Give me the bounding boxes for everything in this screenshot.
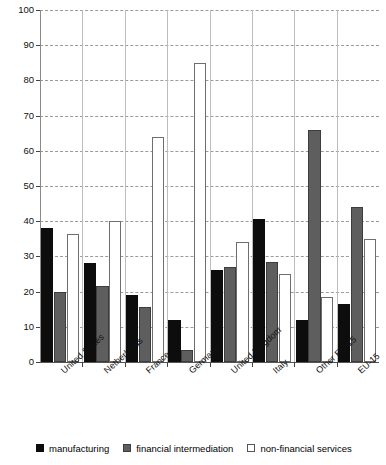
x-tick-mark [210,362,211,367]
legend-item: financial intermediation [123,443,233,454]
bar-nonfin [152,137,164,362]
bar-nonfin [67,234,79,362]
bar-group [294,10,336,362]
y-tick-label-40: 40 [0,216,34,226]
bar-chart: 0102030405060708090100 United StatesNeth… [0,0,386,465]
y-tick-label-60: 60 [0,146,34,156]
bar-manufacturing [84,263,96,362]
bar-nonfin [321,297,333,362]
y-tick-label-70: 70 [0,111,34,121]
legend-item: manufacturing [36,443,109,454]
y-tick-label-50: 50 [0,181,34,191]
bar-group [125,10,167,362]
bar-financial [139,307,151,362]
bar-group [252,10,294,362]
bar-nonfin [194,63,206,362]
legend-item: non-financial services [247,443,351,454]
bar-manufacturing [168,320,180,362]
x-tick-mark [337,362,338,367]
x-tick-mark [167,362,168,367]
y-tick-label-100: 100 [0,5,34,15]
bar-group [40,10,82,362]
bar-nonfin [109,221,121,362]
legend-swatch-financial [123,444,131,452]
bar-group [167,10,209,362]
chart-legend: manufacturingfinancial intermediationnon… [36,440,376,456]
bar-manufacturing [126,295,138,362]
bar-manufacturing [211,270,223,362]
y-tick-label-20: 20 [0,287,34,297]
legend-label: financial intermediation [136,443,233,454]
x-tick-mark [252,362,253,367]
bar-financial [308,130,320,362]
bar-group [82,10,124,362]
bar-manufacturing [41,228,53,362]
bar-groups [40,10,379,362]
bar-financial [266,262,278,362]
bar-manufacturing [338,304,350,362]
bar-group [337,10,379,362]
x-tick-mark [82,362,83,367]
legend-swatch-nonfin [247,444,255,452]
y-tick-label-30: 30 [0,251,34,261]
bar-group [210,10,252,362]
x-tick-mark [125,362,126,367]
legend-label: non-financial services [260,443,351,454]
bar-financial [224,267,236,362]
bar-manufacturing [296,320,308,362]
bar-financial [54,292,66,362]
x-tick-mark [294,362,295,367]
bar-financial [181,350,193,362]
bar-nonfin [364,239,376,362]
bar-financial [96,286,108,362]
bar-financial [351,207,363,362]
legend-swatch-manufacturing [36,444,44,452]
y-tick-label-90: 90 [0,40,34,50]
y-tick-label-10: 10 [0,322,34,332]
legend-label: manufacturing [49,443,109,454]
bar-manufacturing [253,219,265,362]
y-tick-label-80: 80 [0,75,34,85]
bar-nonfin [279,274,291,362]
bar-nonfin [236,242,248,362]
y-tick-label-0: 0 [0,357,34,367]
